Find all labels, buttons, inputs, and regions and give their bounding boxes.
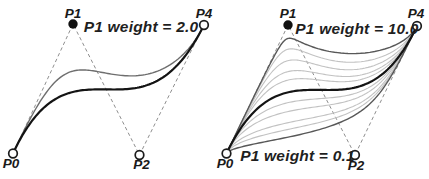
- bezier-curve-w1: [227, 26, 418, 154]
- point-label-p4: P4: [196, 6, 213, 21]
- point-label-p1: P1: [280, 6, 297, 21]
- figure-canvas: P0P1P2P4P1 weight = 2.0P0P1P2P4P1 weight…: [0, 0, 429, 179]
- annotation-weight-label: P1 weight = 2.0: [84, 18, 199, 35]
- point-label-p4: P4: [408, 6, 425, 21]
- point-label-p1: P1: [65, 6, 82, 21]
- control-point-p1-filled: [68, 19, 77, 28]
- control-point-p1-filled: [283, 20, 292, 29]
- control-point-p4: [200, 21, 209, 30]
- bezier-curve-w1: [13, 25, 204, 154]
- point-label-p0: P0: [3, 156, 20, 171]
- annotation-weight-label-bottom: P1 weight = 0.1: [240, 147, 355, 164]
- point-label-p2: P2: [133, 157, 150, 172]
- panel-left: P0P1P2P4P1 weight = 2.0: [3, 6, 213, 173]
- point-label-p0: P0: [217, 156, 234, 171]
- rational-bezier-figure: P0P1P2P4P1 weight = 2.0P0P1P2P4P1 weight…: [0, 0, 429, 179]
- panel-right: P0P1P2P4P1 weight = 10.0P1 weight = 0.1: [217, 6, 425, 174]
- annotation-weight-label-top: P1 weight = 10.0: [295, 20, 419, 37]
